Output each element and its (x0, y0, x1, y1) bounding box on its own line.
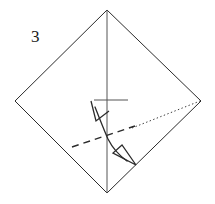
step-number-label: 3 (31, 27, 40, 46)
paper-outline-diamond (15, 10, 201, 193)
arrowhead-down-right-icon (113, 145, 136, 165)
origami-diagram-canvas: 3 (0, 0, 215, 204)
origami-step-diagram: 3 (0, 0, 215, 204)
arrowhead-up-left-icon (91, 101, 109, 121)
dotted-reference-line (132, 101, 200, 128)
